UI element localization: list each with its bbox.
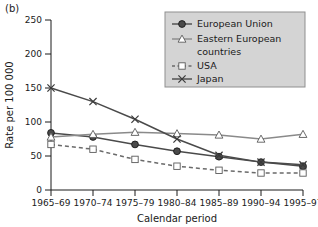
data-point — [174, 148, 181, 155]
data-point — [174, 163, 180, 169]
data-point — [216, 167, 222, 173]
legend: European UnionEastern EuropeancountriesU… — [165, 12, 305, 87]
y-axis-ticks: 050100150200250 — [25, 15, 51, 195]
data-point — [132, 156, 138, 162]
x-tick-label: 1970–74 — [74, 198, 113, 208]
x-tick-label: 1985–89 — [200, 198, 239, 208]
x-axis-title: Calendar period — [137, 213, 217, 224]
series-usa — [48, 141, 306, 176]
data-point — [132, 141, 139, 148]
x-tick-label: 1995–97 — [284, 198, 318, 208]
y-tick-label: 250 — [25, 15, 42, 25]
legend-label: Japan — [196, 73, 224, 84]
x-tick-label: 1975–79 — [116, 198, 155, 208]
legend-label: USA — [197, 60, 217, 71]
legend-label: Eastern European — [197, 33, 281, 44]
y-axis-title: Rate per 100 000 — [4, 61, 15, 148]
data-point — [300, 163, 307, 170]
data-point — [258, 170, 264, 176]
data-point — [48, 141, 54, 147]
legend-item[interactable]: countries — [197, 46, 241, 57]
y-tick-label: 200 — [25, 49, 42, 59]
series-eastern-european-countries — [47, 128, 307, 142]
chart-panel: (b) 050100150200250 1965–691970–741975–7… — [0, 0, 318, 227]
legend-label: European Union — [197, 18, 273, 29]
legend-marker — [179, 21, 186, 28]
data-series-layer — [47, 84, 307, 176]
line-chart: 050100150200250 1965–691970–741975–79198… — [0, 0, 318, 227]
x-tick-label: 1965–69 — [32, 198, 71, 208]
y-tick-label: 150 — [25, 83, 42, 93]
y-tick-label: 0 — [36, 185, 42, 195]
series-japan — [47, 84, 306, 168]
y-tick-label: 50 — [31, 151, 43, 161]
legend-label: countries — [197, 46, 241, 57]
x-tick-label: 1990–94 — [242, 198, 281, 208]
data-point — [300, 170, 306, 176]
data-point — [90, 146, 96, 152]
x-tick-label: 1980–84 — [158, 198, 197, 208]
y-tick-label: 100 — [25, 117, 42, 127]
legend-marker — [179, 63, 185, 69]
x-axis-ticks: 1965–691970–741975–791980–841985–891990–… — [32, 190, 318, 208]
